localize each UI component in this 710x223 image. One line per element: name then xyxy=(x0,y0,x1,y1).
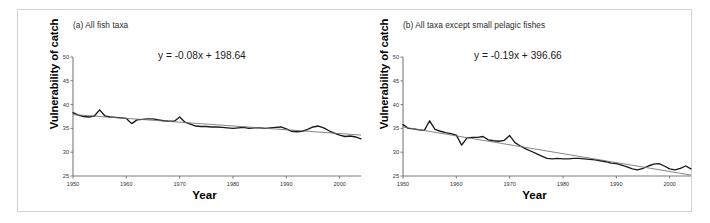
panel-b-x-tick-label: 2000 xyxy=(663,181,675,187)
panel-b-x-tick-label: 1960 xyxy=(450,181,462,187)
panel-b-y-tick-label: 40 xyxy=(393,102,399,108)
panel-a-plot: 253035404550195019601970198019902000 xyxy=(36,10,373,211)
panel-a-y-tick-label: 50 xyxy=(63,54,69,60)
panel-b-x-tick-label: 1990 xyxy=(610,181,622,187)
panel-b-y-tick-label: 35 xyxy=(393,125,399,131)
figure-frame: (a) All fish taxa y = -0.08x + 198.64 Vu… xyxy=(17,9,692,212)
panel-b-y-tick-label: 25 xyxy=(393,173,399,179)
panel-a-data-line xyxy=(73,110,361,139)
panel-b-trend-line xyxy=(403,127,691,175)
panel-b-y-tick-label: 45 xyxy=(393,78,399,84)
panel-a-y-tick-label: 40 xyxy=(63,102,69,108)
panel-a-x-axis-label: Year xyxy=(36,188,373,201)
panel-a-x-tick-label: 1980 xyxy=(227,181,239,187)
panel-a-x-tick-label: 1970 xyxy=(173,181,185,187)
panel-a-y-tick-label: 35 xyxy=(63,125,69,131)
chart-panel-b: (b) All taxa except small pelagic fishes… xyxy=(366,10,703,211)
panel-a-x-tick-label: 1950 xyxy=(67,181,79,187)
panel-a-x-tick-label: 2000 xyxy=(333,181,345,187)
panel-a-trend-line xyxy=(73,115,361,135)
figure-root: (a) All fish taxa y = -0.08x + 198.64 Vu… xyxy=(0,0,710,223)
panel-b-x-tick-label: 1950 xyxy=(397,181,409,187)
panel-b-y-tick-label: 30 xyxy=(393,149,399,155)
panel-b-y-tick-label: 50 xyxy=(393,54,399,60)
panel-a-x-tick-label: 1990 xyxy=(280,181,292,187)
panel-a-y-tick-label: 25 xyxy=(63,173,69,179)
panel-b-x-tick-label: 1980 xyxy=(557,181,569,187)
panel-b-x-tick-label: 1970 xyxy=(503,181,515,187)
chart-panel-a: (a) All fish taxa y = -0.08x + 198.64 Vu… xyxy=(36,10,373,211)
panel-a-y-tick-label: 30 xyxy=(63,149,69,155)
panel-a-x-tick-label: 1960 xyxy=(120,181,132,187)
panel-a-y-tick-label: 45 xyxy=(63,78,69,84)
panel-b-data-line xyxy=(403,121,691,170)
panel-b-plot: 253035404550195019601970198019902000 xyxy=(366,10,703,211)
panel-b-x-axis-label: Year xyxy=(366,188,703,201)
